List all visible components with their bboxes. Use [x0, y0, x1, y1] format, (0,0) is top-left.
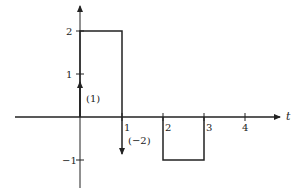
- y-tick-label-2: 2: [66, 26, 72, 37]
- y-tick-label-1: 1: [66, 69, 72, 80]
- t-axis-label: t: [286, 110, 291, 123]
- signal-plot: t 1 2 3 4 2 1 −1 (1) (−2): [0, 0, 300, 190]
- impulse-negative-label: (−2): [128, 135, 151, 146]
- x-tick-label-1: 1: [124, 122, 130, 133]
- x-tick-label-4: 4: [242, 122, 248, 133]
- x-tick-label-3: 3: [206, 122, 212, 133]
- impulse-positive-label: (1): [86, 93, 100, 104]
- x-tick-label-2: 2: [165, 122, 171, 133]
- y-tick-label-minus1: −1: [62, 155, 77, 166]
- signal-plot-svg: t 1 2 3 4 2 1 −1 (1) (−2): [0, 0, 300, 190]
- pulse-positive: [80, 31, 122, 117]
